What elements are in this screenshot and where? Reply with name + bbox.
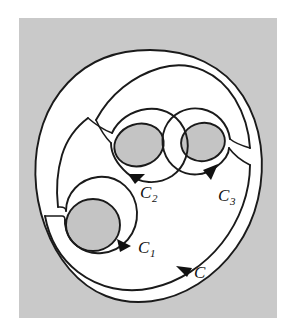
label-C: C [194, 263, 206, 282]
figure-root: C 2 C 3 C 1 C [0, 0, 294, 336]
label-C3-subscript: 3 [229, 195, 236, 207]
label-C1-subscript: 1 [150, 247, 156, 259]
label-C2-base: C [140, 183, 152, 202]
label-C1-base: C [138, 238, 150, 257]
label-C2-subscript: 2 [152, 192, 158, 204]
label-C3-base: C [218, 186, 230, 205]
label-C-base: C [194, 263, 206, 282]
multiply-connected-region-diagram: C 2 C 3 C 1 C [0, 0, 294, 336]
